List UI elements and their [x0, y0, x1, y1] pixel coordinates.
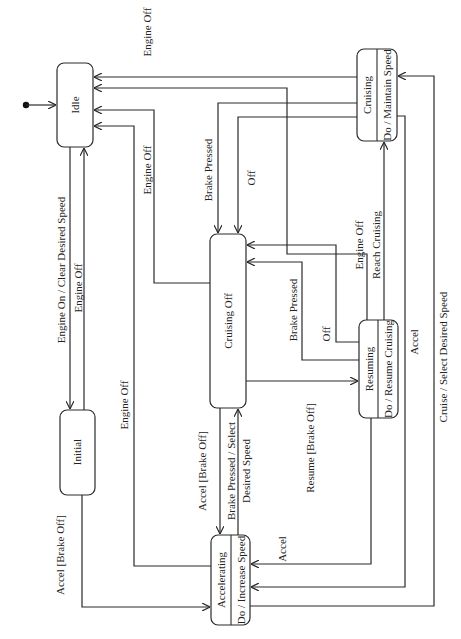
label-reach-cruising: Reach Cruising — [370, 210, 382, 279]
label-cruising-off: Off — [245, 170, 257, 185]
label-cruisingoff-accel: Accel [Brake Off] — [196, 431, 208, 511]
state-initial-label: Initial — [71, 439, 83, 465]
label-accelerating-engine-off: Engine Off — [118, 380, 130, 429]
state-idle: Idle — [57, 63, 93, 147]
state-cruising-activity: Do / Maintain Speed — [381, 49, 393, 141]
label-cruising-accel: Accel — [408, 329, 420, 355]
edge-resuming-to-cruisingoff-brake — [247, 262, 359, 360]
label-cruisingoff-engine-off: Engine Off — [141, 145, 153, 194]
label-initial-engine-off: Engine Off — [72, 263, 84, 312]
label-initial-accel: Accel [Brake Off] — [54, 515, 66, 595]
label-resuming-engine-off: Engine Off — [353, 220, 365, 269]
label-resuming-off: Off — [320, 326, 332, 341]
label-cruising-engine-off: Engine Off — [141, 7, 153, 56]
edge-cruisingoff-to-idle — [94, 110, 210, 283]
label-resuming-brake-pressed: Brake Pressed — [287, 278, 299, 341]
label-engine-on: Engine On / Clear Desired Speed — [55, 196, 67, 343]
state-idle-label: Idle — [69, 96, 81, 113]
state-initial: Initial — [60, 410, 95, 495]
edge-initial-to-accelerating — [82, 495, 210, 607]
edge-accelerating-to-cruising — [250, 76, 434, 606]
label-brake-select-line2: Desired Speed — [240, 439, 252, 503]
state-cruising-off-label: Cruising Off — [222, 293, 234, 349]
edge-resuming-to-cruisingoff-off — [247, 245, 359, 342]
label-cruise-select: Cruise / Select Desired Speed — [437, 291, 449, 422]
state-accelerating-label: Accelerating — [215, 551, 227, 608]
label-brake-select-line1: Brake Pressed / Select — [225, 422, 237, 520]
state-diagram: Idle Initial Cruising Off Accelerating D… — [0, 0, 461, 639]
label-resuming-accel: Accel — [276, 536, 288, 562]
label-resume-brake-off: Resume [Brake Off] — [304, 403, 316, 493]
state-accelerating-activity: Do / Increase Speed — [235, 535, 247, 624]
state-accelerating: Accelerating Do / Increase Speed — [211, 535, 250, 625]
label-cruising-brake-pressed: Brake Pressed — [202, 138, 214, 201]
state-resuming: Resuming Do / Resume Cruising — [359, 319, 398, 418]
state-resuming-activity: Do / Resume Cruising — [382, 319, 394, 418]
state-cruising-label: Cruising — [361, 76, 373, 114]
state-cruising-off: Cruising Off — [210, 234, 246, 408]
state-resuming-label: Resuming — [363, 346, 375, 391]
state-cruising: Cruising Do / Maintain Speed — [357, 49, 397, 141]
